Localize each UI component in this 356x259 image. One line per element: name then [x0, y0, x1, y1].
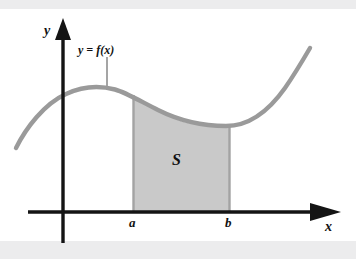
- figure-container: y x a b S y = f(x): [0, 0, 356, 259]
- plot-canvas: [0, 0, 356, 259]
- x-tick-label-b: b: [225, 216, 232, 229]
- y-axis-arrowhead: [55, 18, 71, 40]
- function-curve-label: y = f(x): [78, 44, 114, 56]
- shaded-region-s: [133, 95, 230, 212]
- x-axis-label: x: [325, 220, 332, 234]
- x-tick-label-a: a: [129, 216, 136, 229]
- shaded-region-label: S: [172, 152, 181, 168]
- y-axis-label: y: [44, 24, 50, 38]
